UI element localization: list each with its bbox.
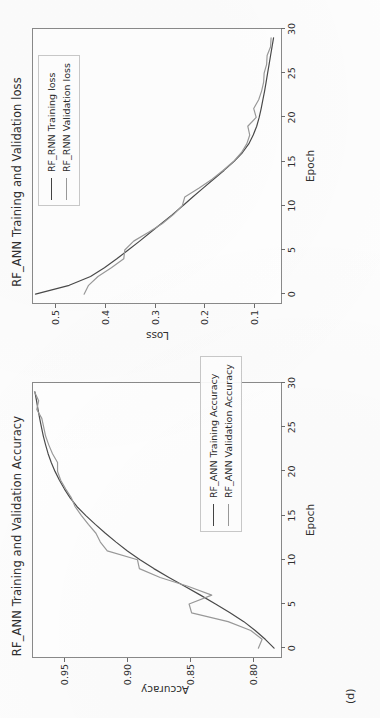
- x-tick-mark: [281, 72, 285, 73]
- y-tick-label: 0.90: [122, 664, 133, 704]
- legend-label-train: RF_ANN Training Accuracy: [206, 374, 221, 498]
- x-tick-mark: [281, 205, 285, 206]
- y-tick-label: 0.95: [59, 664, 70, 704]
- x-tick-mark: [281, 515, 285, 516]
- figure-canvas: RF_ANN Training and Validation Accuracy …: [0, 0, 380, 718]
- x-tick-label: 30: [286, 23, 297, 35]
- y-tick-label: 0.85: [185, 664, 196, 704]
- loss-legend: RF_RNN Training loss RF_RNN Validation l…: [38, 55, 80, 206]
- x-tick-label: 0: [286, 291, 297, 297]
- x-tick-mark: [281, 426, 285, 427]
- x-tick-mark: [281, 249, 285, 250]
- panel-accuracy: RF_ANN Training and Validation Accuracy …: [4, 362, 334, 710]
- y-tick-label: 0.1: [248, 310, 259, 350]
- legend-swatch-train-line: [213, 504, 214, 526]
- x-tick-mark: [281, 470, 285, 471]
- x-tick-label: 10: [286, 554, 297, 566]
- accuracy-chart-title: RF_ANN Training and Validation Accuracy: [10, 362, 24, 710]
- y-tick-mark: [155, 304, 156, 308]
- legend-row-train: RF_ANN Training Accuracy: [206, 364, 221, 526]
- legend-label-train: RF_RNN Training loss: [44, 72, 59, 172]
- x-tick-label: 10: [286, 200, 297, 212]
- x-tick-mark: [281, 603, 285, 604]
- y-tick-mark: [105, 304, 106, 308]
- x-tick-mark: [281, 161, 285, 162]
- panel-row: RF_ANN Training and Validation Accuracy …: [4, 8, 334, 710]
- legend-row-train: RF_RNN Training loss: [44, 63, 59, 200]
- subfigure-label: (d): [344, 688, 357, 704]
- y-tick-mark: [64, 658, 65, 662]
- x-tick-mark: [281, 293, 285, 294]
- x-tick-label: 5: [286, 247, 297, 253]
- y-tick-label: 0.2: [199, 310, 210, 350]
- scanned-page: RF_ANN Training and Validation Accuracy …: [0, 0, 380, 718]
- x-tick-label: 0: [286, 645, 297, 651]
- y-tick-mark: [190, 658, 191, 662]
- x-tick-label: 20: [286, 465, 297, 477]
- y-tick-label: 0.5: [50, 310, 61, 350]
- legend-row-validation: RF_ANN Validation Accuracy: [221, 364, 236, 526]
- y-tick-mark: [254, 304, 255, 308]
- x-tick-mark: [281, 647, 285, 648]
- legend-swatch-train-line: [51, 178, 52, 200]
- y-tick-mark: [55, 304, 56, 308]
- y-tick-mark: [253, 658, 254, 662]
- loss-x-axis-label: Epoch: [304, 28, 316, 304]
- x-tick-label: 30: [286, 377, 297, 389]
- legend-row-validation: RF_RNN Validation loss: [59, 63, 74, 200]
- accuracy-plot-area: [32, 382, 282, 658]
- panel-loss: RF_ANN Training and Validation loss Loss…: [4, 8, 334, 356]
- x-tick-mark: [281, 382, 285, 383]
- x-tick-label: 25: [286, 421, 297, 433]
- x-tick-mark: [281, 559, 285, 560]
- accuracy-series-svg: [33, 383, 281, 657]
- accuracy-x-axis-label: Epoch: [304, 382, 316, 658]
- x-tick-label: 15: [286, 510, 297, 522]
- accuracy-legend: RF_ANN Training Accuracy RF_ANN Validati…: [200, 356, 242, 532]
- x-tick-label: 25: [286, 67, 297, 79]
- legend-label-validation: RF_RNN Validation loss: [59, 63, 74, 172]
- legend-swatch-validation-line: [66, 178, 67, 200]
- x-tick-label: 20: [286, 111, 297, 123]
- y-tick-label: 0.80: [248, 664, 259, 704]
- y-tick-label: 0.4: [99, 310, 110, 350]
- legend-swatch-validation-line: [228, 504, 229, 526]
- x-tick-label: 15: [286, 156, 297, 168]
- y-tick-mark: [127, 658, 128, 662]
- x-tick-mark: [281, 116, 285, 117]
- series-line: [84, 38, 271, 294]
- y-tick-mark: [204, 304, 205, 308]
- y-tick-label: 0.3: [149, 310, 160, 350]
- legend-label-validation: RF_ANN Validation Accuracy: [221, 364, 236, 498]
- x-tick-mark: [281, 28, 285, 29]
- x-tick-label: 5: [286, 601, 297, 607]
- loss-chart-title: RF_ANN Training and Validation loss: [10, 8, 24, 356]
- accuracy-y-axis-label: Accuracy: [141, 684, 189, 696]
